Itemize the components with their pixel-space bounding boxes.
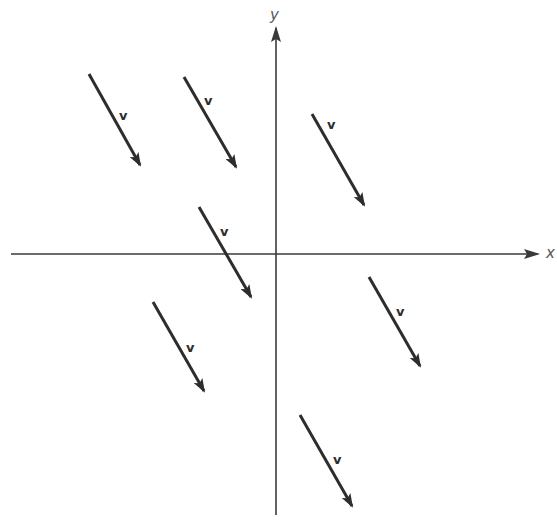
vector-label: v <box>186 340 195 355</box>
vector-v: v <box>300 415 352 506</box>
vector-field-diagram: xy vvvvvvv <box>0 0 557 528</box>
vector-label: v <box>396 304 405 319</box>
vector-v: v <box>89 74 140 165</box>
vector-arrow <box>369 277 420 366</box>
vector-arrow <box>199 207 251 297</box>
vectors: vvvvvvv <box>89 74 420 506</box>
vector-v: v <box>184 77 236 167</box>
vector-arrow <box>312 114 364 205</box>
vector-label: v <box>220 224 229 239</box>
vector-label: v <box>327 117 336 132</box>
vector-arrow <box>184 77 236 167</box>
x-axis-label: x <box>545 244 555 262</box>
y-axis-label: y <box>269 6 280 24</box>
vector-label: v <box>204 93 213 108</box>
vector-arrow <box>89 74 140 165</box>
vector-arrow <box>153 302 204 391</box>
vector-v: v <box>369 277 420 366</box>
vector-label: v <box>119 108 128 123</box>
vector-v: v <box>199 207 251 297</box>
diagram-svg: xy vvvvvvv <box>0 0 557 528</box>
vector-label: v <box>333 452 342 467</box>
vector-v: v <box>312 114 364 205</box>
vector-arrow <box>300 415 352 506</box>
vector-v: v <box>153 302 204 391</box>
